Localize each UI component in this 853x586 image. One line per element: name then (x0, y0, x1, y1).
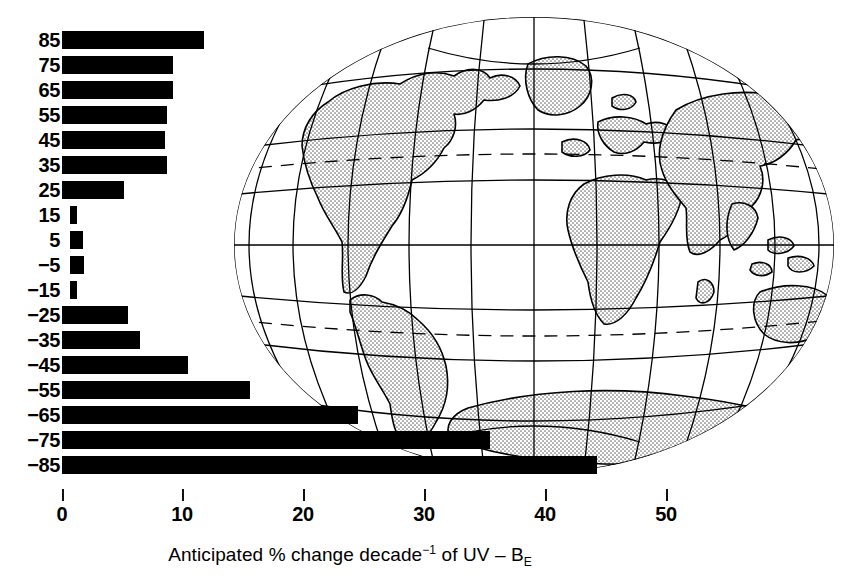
y-tick-label: 15 (14, 203, 60, 228)
bar-row: 35 (0, 153, 853, 178)
bar-row: −15 (0, 278, 853, 303)
bar (62, 306, 128, 324)
x-tick-label: 50 (636, 503, 696, 526)
bar (62, 431, 490, 449)
bar-row: −5 (0, 253, 853, 278)
y-tick-label: −5 (14, 253, 60, 278)
x-tick-label: 20 (273, 503, 333, 526)
x-tick-mark (182, 489, 184, 501)
x-tick-label: 0 (32, 503, 92, 526)
bar-row: −35 (0, 328, 853, 353)
bar-row: −65 (0, 403, 853, 428)
bar-row: 5 (0, 228, 853, 253)
x-tick-mark (303, 489, 305, 501)
bar-row: 85 (0, 28, 853, 53)
bar-row: 65 (0, 78, 853, 103)
bar-row: −25 (0, 303, 853, 328)
bar-row: 45 (0, 128, 853, 153)
x-tick-mark (424, 489, 426, 501)
bar (62, 181, 124, 199)
x-tick-mark (62, 489, 64, 501)
x-tick-label: 10 (152, 503, 212, 526)
y-tick-label: −15 (14, 278, 60, 303)
x-tick-mark (545, 489, 547, 501)
y-tick-label: −55 (14, 378, 60, 403)
bar-row: −85 (0, 453, 853, 478)
bar (62, 356, 188, 374)
y-tick-label: 5 (14, 228, 60, 253)
y-tick-label: −65 (14, 403, 60, 428)
x-axis: 0 10 20 30 40 50 (0, 489, 853, 529)
bar-row: 55 (0, 103, 853, 128)
bar-row: −55 (0, 378, 853, 403)
axis-title-subscript: E (524, 555, 532, 569)
x-tick-label: 40 (515, 503, 575, 526)
bar (62, 381, 250, 399)
bar (62, 131, 165, 149)
x-tick-label: 30 (394, 503, 454, 526)
figure-uv-b-change-by-latitude: 85 75 65 55 45 35 25 15 5 −5 −15 −25 −35… (0, 0, 853, 586)
bar (70, 256, 84, 274)
y-tick-label: −25 (14, 303, 60, 328)
bar (62, 56, 173, 74)
y-tick-label: 25 (14, 178, 60, 203)
y-tick-label: 85 (14, 28, 60, 53)
bar (70, 206, 77, 224)
bar (62, 406, 358, 424)
bar (70, 231, 83, 249)
y-tick-label: 35 (14, 153, 60, 178)
bar (62, 106, 167, 124)
y-tick-label: 75 (14, 53, 60, 78)
bar (62, 156, 167, 174)
bar-row: 15 (0, 203, 853, 228)
axis-title-exponent: −1 (422, 543, 436, 557)
y-tick-label: −85 (14, 453, 60, 478)
y-tick-label: −75 (14, 428, 60, 453)
bar (62, 81, 173, 99)
bar-row: 75 (0, 53, 853, 78)
y-tick-label: 45 (14, 128, 60, 153)
axis-title-lead: Anticipated % change decade (168, 544, 422, 565)
x-axis-title: Anticipated % change decade−1 of UV – BE (0, 543, 700, 569)
y-tick-label: −35 (14, 328, 60, 353)
bar (62, 456, 597, 474)
y-tick-label: 65 (14, 78, 60, 103)
bar (70, 281, 77, 299)
y-tick-label: 55 (14, 103, 60, 128)
y-tick-label: −45 (14, 353, 60, 378)
x-tick-mark (666, 489, 668, 501)
bar (62, 31, 204, 49)
bar (62, 331, 140, 349)
bar-row: −45 (0, 353, 853, 378)
axis-title-mid: of UV – B (436, 544, 524, 565)
bar-row: 25 (0, 178, 853, 203)
bar-row: −75 (0, 428, 853, 453)
